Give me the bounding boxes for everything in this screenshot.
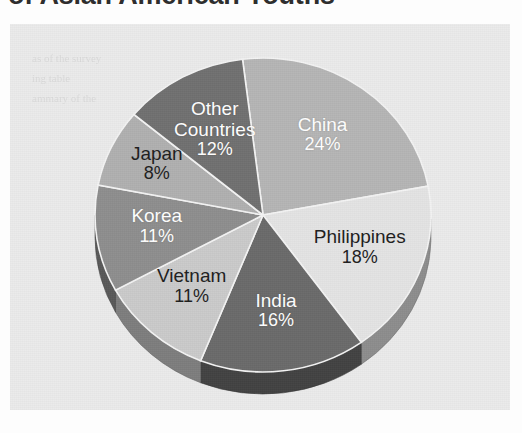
pie-chart-graphic	[10, 24, 510, 410]
pie-top-layer	[95, 58, 431, 372]
page-title-clip: of Asian American Youths	[0, 0, 522, 14]
pie-chart-panel: as of the survey ing table ammary of the…	[10, 24, 510, 410]
page-title: of Asian American Youths	[8, 0, 335, 11]
